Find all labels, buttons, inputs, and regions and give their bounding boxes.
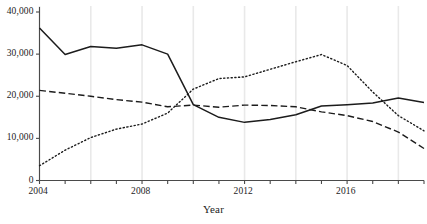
y-tick-label: 20,000 xyxy=(7,91,34,101)
chart-plot-area xyxy=(0,0,427,224)
x-tick-label: 2016 xyxy=(336,187,355,197)
y-tick-label: 10,000 xyxy=(7,133,34,143)
x-tick-label: 2008 xyxy=(131,187,150,197)
series-line-dotted xyxy=(40,55,425,166)
x-axis-title: Year xyxy=(0,203,427,215)
gridlines xyxy=(40,6,399,181)
line-chart: 010,00020,00030,00040,000 20042008201220… xyxy=(0,0,427,224)
x-tick-label: 2012 xyxy=(234,187,253,197)
series-line-solid xyxy=(40,28,425,122)
data-series xyxy=(40,28,425,166)
y-tick-label: 0 xyxy=(29,176,34,186)
y-tick-label: 30,000 xyxy=(7,49,34,59)
x-tick-label: 2004 xyxy=(29,187,48,197)
axes xyxy=(40,7,425,181)
y-tick-label: 40,000 xyxy=(7,7,34,17)
